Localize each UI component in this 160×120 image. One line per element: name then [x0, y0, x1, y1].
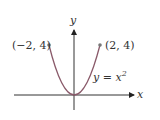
function-label: y = x2	[92, 69, 127, 84]
exponent: 2	[121, 69, 127, 78]
point-right-label: (2, 4)	[105, 39, 135, 52]
x-axis-label: x	[137, 88, 144, 101]
y-axis-label: y	[69, 14, 77, 27]
point-left-label: (−2, 4)	[12, 39, 51, 52]
parabola-diagram: y x (−2, 4) (2, 4) y = x2	[0, 0, 160, 120]
point-right	[98, 43, 102, 47]
